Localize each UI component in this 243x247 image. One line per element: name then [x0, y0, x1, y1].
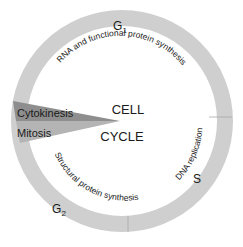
- phase-s-label: S: [193, 172, 201, 186]
- g2-activity-label: Structural protein synthesis: [53, 150, 139, 202]
- title-cell: CELL: [112, 102, 145, 117]
- cell-cycle-diagram: Cytokinesis Mitosis CELL CYCLE G1 S G2 R…: [0, 0, 243, 247]
- cytokinesis-label: Cytokinesis: [17, 107, 74, 119]
- title-cycle: CYCLE: [100, 129, 144, 144]
- mitosis-label: Mitosis: [17, 127, 52, 139]
